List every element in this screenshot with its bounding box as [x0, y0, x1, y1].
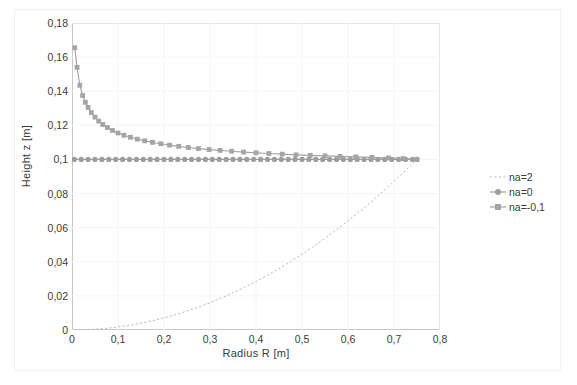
series-marker — [161, 157, 166, 162]
legend-marker-icon — [489, 185, 507, 199]
series-marker — [150, 140, 155, 145]
series-marker — [122, 133, 127, 138]
legend-item[interactable]: na=-0,1 — [489, 199, 567, 214]
y-tick-label: 0,04 — [2, 257, 68, 267]
series-marker — [120, 157, 125, 162]
series-marker — [100, 122, 105, 127]
series-marker — [148, 157, 153, 162]
series-marker — [254, 150, 259, 155]
series-marker — [99, 157, 104, 162]
series-marker — [299, 157, 304, 162]
series-layer — [72, 45, 420, 330]
series-marker — [176, 144, 181, 149]
series-marker — [155, 157, 160, 162]
legend-label: na=2 — [507, 171, 533, 183]
series-marker — [210, 157, 215, 162]
series-marker — [142, 138, 147, 143]
data-series — [74, 159, 417, 330]
x-tick-label: 0,7 — [374, 333, 414, 345]
series-marker — [113, 157, 118, 162]
series-marker — [203, 157, 208, 162]
plot-wrapper: 00,020,040,060,080,10,120,140,160,18 00,… — [0, 0, 577, 385]
series-marker — [217, 157, 222, 162]
series-marker — [96, 119, 101, 124]
legend-label: na=-0,1 — [507, 201, 545, 213]
series-marker — [286, 157, 291, 162]
series-marker — [189, 157, 194, 162]
x-tick-label: 0,6 — [328, 333, 368, 345]
x-tick-label: 0 — [52, 333, 92, 345]
series-line — [74, 159, 417, 330]
series-marker — [106, 157, 111, 162]
gridlines — [72, 23, 440, 330]
series-marker — [386, 156, 391, 161]
y-tick-label: 0,02 — [2, 291, 68, 301]
series-marker — [396, 157, 401, 162]
x-tick-label: 0,3 — [190, 333, 230, 345]
series-marker — [327, 157, 332, 162]
series-marker — [83, 100, 88, 105]
series-marker — [258, 157, 263, 162]
series-marker — [218, 148, 223, 153]
legend-marker-icon — [489, 170, 507, 184]
series-marker — [224, 157, 229, 162]
series-marker — [241, 150, 246, 155]
series-marker — [168, 157, 173, 162]
chart-legend: na=2na=0na=-0,1 — [489, 169, 567, 214]
series-marker — [280, 152, 285, 157]
chart-figure: 00,020,040,060,080,10,120,140,160,18 00,… — [0, 0, 577, 385]
y-tick-label: 0,12 — [2, 120, 68, 130]
x-tick-label: 0,5 — [282, 333, 322, 345]
series-marker — [135, 137, 140, 142]
series-marker — [353, 154, 358, 159]
series-marker — [79, 157, 84, 162]
series-marker — [186, 145, 191, 150]
plot-svg — [72, 23, 440, 330]
series-marker — [415, 157, 420, 162]
series-marker — [175, 157, 180, 162]
series-marker — [72, 45, 77, 50]
series-marker — [127, 157, 132, 162]
x-tick-label: 0,4 — [236, 333, 276, 345]
series-marker — [237, 157, 242, 162]
x-axis-label: Radius R [m] — [72, 347, 440, 359]
y-tick-label: 0,1 — [2, 154, 68, 164]
series-line — [75, 48, 417, 160]
series-marker — [348, 157, 353, 162]
y-axis-ticks: 00,020,040,060,080,10,120,140,160,18 — [0, 23, 68, 330]
legend-label: na=0 — [507, 186, 533, 198]
legend-item[interactable]: na=0 — [489, 184, 567, 199]
series-marker — [293, 157, 298, 162]
series-marker — [196, 157, 201, 162]
series-marker — [75, 65, 80, 70]
series-marker — [401, 156, 406, 161]
series-marker — [196, 146, 201, 151]
series-marker — [86, 105, 91, 110]
series-marker — [272, 157, 277, 162]
series-marker — [110, 128, 115, 133]
series-marker — [182, 157, 187, 162]
series-marker — [89, 110, 94, 115]
legend-item[interactable]: na=2 — [489, 169, 567, 184]
legend-marker-icon — [489, 200, 507, 214]
series-marker — [128, 135, 133, 140]
series-marker — [230, 157, 235, 162]
series-marker — [167, 143, 172, 148]
series-marker — [338, 154, 343, 159]
series-marker — [134, 157, 139, 162]
series-marker — [313, 157, 318, 162]
series-marker — [77, 83, 82, 88]
series-marker — [207, 147, 212, 152]
series-marker — [251, 157, 256, 162]
series-marker — [370, 155, 375, 160]
series-marker — [308, 153, 313, 158]
y-tick-label: 0,06 — [2, 223, 68, 233]
series-marker — [266, 151, 271, 156]
y-tick-label: 0,18 — [2, 18, 68, 28]
series-marker — [105, 125, 110, 130]
series-marker — [116, 131, 121, 136]
x-tick-label: 0,2 — [144, 333, 184, 345]
series-marker — [323, 153, 328, 158]
series-marker — [92, 157, 97, 162]
x-tick-label: 0,8 — [420, 333, 460, 345]
